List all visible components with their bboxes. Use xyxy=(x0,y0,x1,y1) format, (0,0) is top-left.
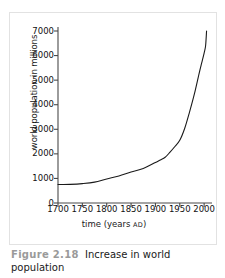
population-curve xyxy=(58,31,207,185)
y-axis-title: world population in millions xyxy=(29,22,39,162)
x-axis-tick-label: 2000 xyxy=(184,205,224,214)
figure-page: 01000200030004000500060007000 1700175018… xyxy=(0,0,225,278)
x-axis-title-close: ) xyxy=(143,219,146,229)
x-axis-title-era: AD xyxy=(133,221,143,229)
y-axis-tick-label: 1000 xyxy=(24,174,54,183)
chart-plot-area: 01000200030004000500060007000 1700175018… xyxy=(10,13,218,246)
x-axis-tick-labels: 1700175018001850190019502000 xyxy=(10,205,218,219)
x-axis-title: time (years AD) xyxy=(10,219,218,229)
figure-caption: Figure 2.18 Increase in world population xyxy=(11,248,217,274)
figure-number: Figure 2.18 xyxy=(11,249,79,260)
x-axis-title-main: time (years xyxy=(82,219,131,229)
figure-frame: 01000200030004000500060007000 1700175018… xyxy=(9,12,217,245)
